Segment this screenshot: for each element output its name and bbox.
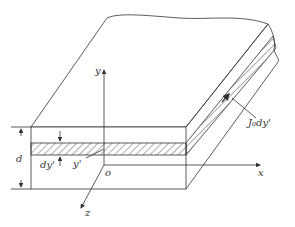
- front-hatched-layer: [31, 143, 186, 155]
- x-axis-label: x: [258, 168, 264, 178]
- origin-label: o: [105, 168, 111, 178]
- layer-position-label: y': [73, 159, 81, 169]
- layer-thickness-label: dy': [40, 160, 55, 170]
- slab-top-face: [31, 15, 268, 127]
- thickness-label: d: [16, 154, 22, 164]
- slab-diagram: [0, 0, 295, 227]
- slab-front-face: [31, 127, 186, 189]
- z-axis-label: z: [85, 208, 90, 218]
- y-axis-label: y: [95, 66, 101, 76]
- current-element-label: J₀dy': [248, 118, 271, 128]
